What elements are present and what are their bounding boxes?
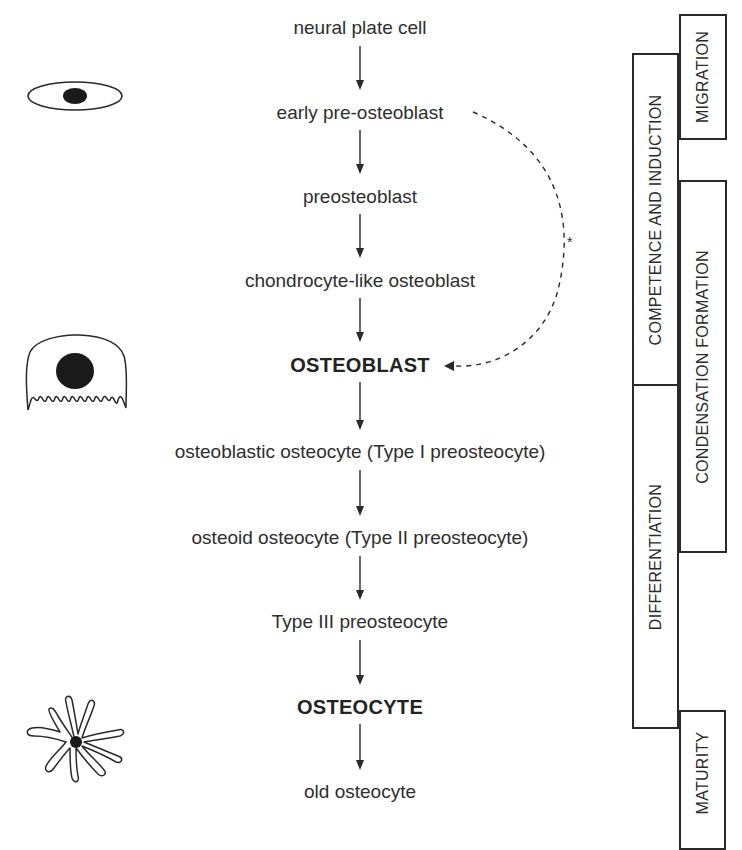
dashed-arrowhead [444,361,454,371]
down-arrows [356,46,364,770]
osteoblast-cell-icon [20,330,130,415]
phase-competence-label: COMPETENCE AND INDUCTION [647,94,665,345]
phase-differentiation: DIFFERENTIATION [632,384,679,729]
phase-competence-and-induction: COMPETENCE AND INDUCTION [632,53,679,386]
phase-maturity: MATURITY [679,710,726,850]
osteocyte-cell-icon [20,690,130,790]
phase-migration: MIGRATION [679,14,727,140]
phase-condensation-label: CONDENSATION FORMATION [694,250,712,484]
phase-differentiation-label: DIFFERENTIATION [647,483,665,629]
phase-migration-label: MIGRATION [694,31,712,123]
shortcut-asterisk: * [567,234,572,250]
dashed-shortcut-arrow [456,112,564,366]
spindle-cell-icon [25,78,125,114]
phase-maturity-label: MATURITY [694,732,712,815]
phase-condensation-formation: CONDENSATION FORMATION [679,180,727,553]
